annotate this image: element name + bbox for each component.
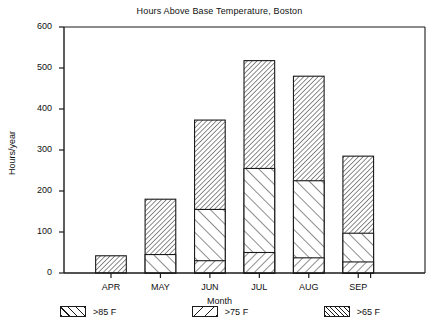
legend-item: >85 F xyxy=(60,306,116,317)
bars-layer xyxy=(96,61,374,273)
bar-segment-jun-h85 xyxy=(195,261,226,273)
plot-area xyxy=(0,0,439,333)
bar-rect xyxy=(96,256,127,273)
legend-swatch-icon xyxy=(324,306,350,317)
legend-swatch-icon xyxy=(192,306,218,317)
bar-rect xyxy=(293,258,324,273)
legend-swatch-icon xyxy=(60,306,86,317)
chart-container: Hours Above Base Temperature, Boston Hou… xyxy=(0,0,439,333)
legend-label: >65 F xyxy=(357,307,380,317)
bar-rect xyxy=(145,255,176,273)
legend-item: >75 F xyxy=(192,306,248,317)
bar-segment-jul-h85 xyxy=(244,253,275,274)
legend-label: >85 F xyxy=(93,307,116,317)
bar-segment-may-h75 xyxy=(145,255,176,273)
bar-segment-aug-h85 xyxy=(293,258,324,273)
bar-rect xyxy=(343,262,374,273)
chart-legend: >85 F>75 F>65 F xyxy=(60,306,380,317)
bar-rect xyxy=(244,253,275,274)
legend-label: >75 F xyxy=(225,307,248,317)
legend-item: >65 F xyxy=(324,306,380,317)
bar-segment-sep-h85 xyxy=(343,262,374,273)
bar-rect xyxy=(195,261,226,273)
bar-segment-apr-h65 xyxy=(96,256,127,273)
